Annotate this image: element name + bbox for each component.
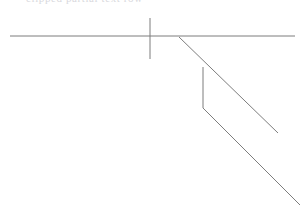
upper-diagonal-line	[179, 37, 278, 133]
lower-diagonal-line	[203, 108, 300, 205]
line-drawing-diagram: clipped partial text row	[0, 0, 308, 212]
diagram-canvas	[0, 0, 308, 212]
